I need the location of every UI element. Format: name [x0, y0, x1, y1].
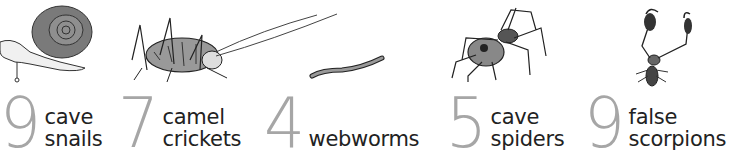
- count-number: 9: [584, 94, 623, 152]
- count-group: 9 falsescorpions: [584, 94, 726, 152]
- count-number: 7: [118, 94, 157, 152]
- snail-icon: [0, 0, 100, 90]
- count-label: camelcrickets: [163, 106, 242, 150]
- count-label: cavespiders: [491, 106, 565, 150]
- count-label: cavesnails: [45, 106, 103, 150]
- count-number: 9: [0, 94, 39, 152]
- count-group: 5 cavespiders: [446, 94, 564, 152]
- count-group: 7 camelcrickets: [118, 94, 241, 152]
- item-false-scorpions: 9 falsescorpions: [584, 0, 729, 155]
- count-group: 4 webworms: [264, 94, 419, 152]
- count-number: 5: [446, 94, 485, 152]
- item-cave-snails: 9 cavesnails: [0, 0, 110, 155]
- item-webworms: 4 webworms: [262, 0, 442, 155]
- count-number: 4: [264, 94, 303, 152]
- count-label: webworms: [309, 128, 420, 150]
- worm-icon: [262, 0, 392, 90]
- spider-icon: [446, 0, 566, 90]
- count-group: 9 cavesnails: [0, 94, 102, 152]
- item-cave-spiders: 5 cavespiders: [446, 0, 576, 155]
- pseudoscorpion-icon: [584, 0, 714, 90]
- count-label: falsescorpions: [629, 106, 727, 150]
